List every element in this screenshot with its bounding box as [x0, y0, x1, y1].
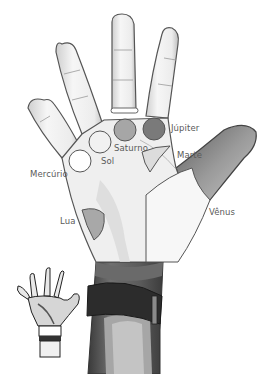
small-hand-thumbnail [17, 268, 79, 357]
palmistry-diagram: Júpiter Saturno Sol Mercúrio Marte Lua V… [0, 0, 274, 374]
label-venus: Vênus [209, 208, 235, 217]
label-marte: Marte [177, 151, 202, 160]
label-sol: Sol [101, 157, 114, 166]
mount-saturno-shape [114, 119, 136, 141]
mount-mercurio-shape [69, 150, 91, 172]
forearm [87, 262, 163, 374]
mount-jupiter-shape [143, 118, 165, 140]
label-jupiter: Júpiter [171, 124, 199, 133]
label-lua: Lua [60, 217, 75, 226]
label-saturno: Saturno [114, 144, 148, 153]
hand-illustration [0, 0, 274, 374]
mount-sol-shape [89, 131, 111, 153]
label-mercurio: Mercúrio [30, 170, 68, 179]
